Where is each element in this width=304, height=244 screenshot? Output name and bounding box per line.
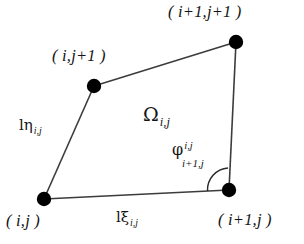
omega-symbol: Ω xyxy=(143,103,159,125)
bottom-edge xyxy=(44,190,229,199)
edge-label-bottom-l-xi: lξi,j xyxy=(116,210,138,228)
vertex-dot-bottom-right xyxy=(222,183,236,197)
right-edge xyxy=(229,42,236,190)
vertex-label-bottom-right: ( i+1,j ) xyxy=(218,212,272,229)
vertex-dot-top-right xyxy=(229,35,243,49)
angle-label-phi: φi,j i+1,j xyxy=(172,141,204,169)
omega-subscript: i,j xyxy=(159,115,170,129)
vertex-label-top-left: ( i,j+1 ) xyxy=(52,48,106,65)
vertex-label-top-right: ( i+1,j+1 ) xyxy=(168,4,242,21)
region-label-omega: Ωi,j xyxy=(143,105,170,128)
vertex-dot-bottom-left xyxy=(37,192,51,206)
l-xi-subscript: i,j xyxy=(129,217,138,228)
phi-superscript: i,j xyxy=(183,140,193,151)
left-edge xyxy=(44,86,94,199)
vertex-label-bottom-left: ( i,j ) xyxy=(6,213,40,230)
l-eta-subscript: i,j xyxy=(33,125,42,136)
edge-label-left-l-eta: lηi,j xyxy=(19,118,42,136)
vertex-dot-top-left xyxy=(87,79,101,93)
l-eta-symbol: lη xyxy=(19,116,33,134)
top-edge xyxy=(94,42,236,86)
l-xi-symbol: lξ xyxy=(116,208,129,226)
quadrilateral-cell-diagram: ( i+1,j+1 ) ( i,j+1 ) ( i,j ) ( i+1,j ) … xyxy=(0,0,304,244)
